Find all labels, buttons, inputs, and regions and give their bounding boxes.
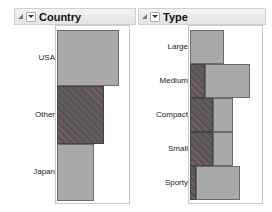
label-large: Large [168,42,188,51]
bar-other-selected[interactable] [57,86,104,144]
country-title: Country [39,11,81,23]
label-medium: Medium [160,76,188,85]
bar-small-selected[interactable] [190,132,213,166]
bar-large[interactable] [190,30,224,64]
type-header: Type [138,8,266,25]
bar-sporty[interactable] [196,166,240,200]
bar-usa[interactable] [57,30,119,86]
red-triangle-menu-icon[interactable] [26,12,36,22]
type-panel: Type Large Medium Compact Small Sporty [136,0,272,212]
bar-compact[interactable] [213,98,233,132]
bar-small[interactable] [213,132,233,166]
label-compact: Compact [156,110,188,119]
bar-medium[interactable] [205,64,250,98]
bar-japan[interactable] [57,144,94,201]
country-panel: Country USA Other Japan [0,0,136,212]
type-title: Type [163,11,188,23]
disclosure-icon[interactable] [142,14,147,19]
label-japan: Japan [33,167,55,176]
country-header: Country [14,8,136,25]
disclosure-icon[interactable] [18,14,23,19]
bar-medium-selected[interactable] [190,64,205,98]
label-small: Small [168,144,188,153]
label-other: Other [35,110,55,119]
label-usa: USA [39,53,55,62]
red-triangle-menu-icon[interactable] [150,12,160,22]
bar-compact-selected[interactable] [190,98,213,132]
label-sporty: Sporty [165,178,188,187]
